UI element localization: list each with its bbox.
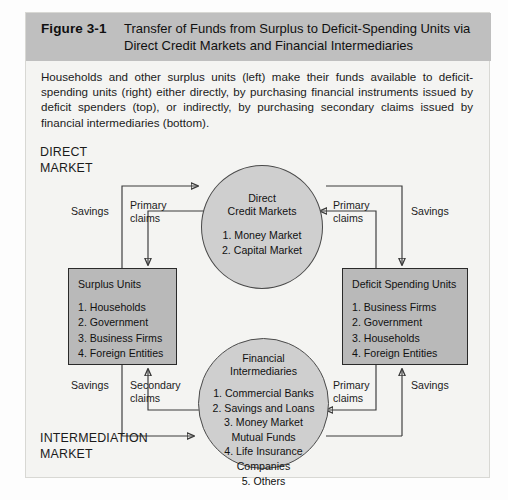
figure-number-label: Figure 3-1 — [41, 21, 107, 36]
market-label-direct: DIRECT MARKET — [40, 144, 93, 176]
figure-header-band: Figure 3-1 Transfer of Funds from Surplu… — [26, 13, 491, 61]
edge-label-primary-claims-bottom-right: Primary claims — [333, 379, 370, 405]
node-surplus-units: Surplus Units 1. Households 2. Governmen… — [68, 268, 177, 365]
edge-label-primary-claims-top-right: Primary claims — [333, 199, 370, 225]
edge-label-secondary-claims-bottom-left: Secondary claims — [130, 379, 181, 405]
figure-screenshot: Figure 3-1 Transfer of Funds from Surplu… — [0, 0, 508, 500]
surplus-units-title: Surplus Units — [78, 278, 141, 290]
figure-caption: Households and other surplus units (left… — [41, 69, 473, 130]
deficit-spending-units-list: 1. Business Firms 2. Government 3. House… — [352, 300, 437, 361]
edge-label-savings-bottom-right: Savings — [411, 379, 449, 392]
edge-label-savings-top-right: Savings — [411, 205, 449, 218]
figure-title: Transfer of Funds from Surplus to Defici… — [124, 20, 482, 54]
node-direct-credit-markets: Direct Credit Markets 1. Money Market 2.… — [201, 165, 323, 289]
surplus-units-list: 1. Households 2. Government 3. Business … — [78, 300, 163, 361]
financial-intermediaries-title: Financial Intermediaries — [199, 352, 328, 378]
figure-panel: Figure 3-1 Transfer of Funds from Surplu… — [25, 12, 490, 478]
direct-credit-markets-title: Direct Credit Markets — [202, 192, 322, 218]
node-deficit-spending-units: Deficit Spending Units 1. Business Firms… — [342, 268, 468, 365]
financial-intermediaries-list: 1. Commercial Banks 2. Savings and Loans… — [199, 386, 328, 488]
deficit-spending-units-title: Deficit Spending Units — [352, 278, 456, 290]
edge-label-savings-top-left: Savings — [71, 205, 109, 218]
direct-credit-markets-list: 1. Money Market 2. Capital Market — [202, 228, 322, 257]
node-financial-intermediaries: Financial Intermediaries 1. Commercial B… — [198, 338, 329, 469]
edge-label-primary-claims-top-left: Primary claims — [130, 199, 167, 225]
edge-label-savings-bottom-left: Savings — [71, 379, 109, 392]
flow-diagram: DIRECT MARKET INTERMEDIATION MARKET Savi… — [26, 131, 491, 479]
market-label-intermediation: INTERMEDIATION MARKET — [40, 430, 148, 462]
wire-savings-top-right — [326, 186, 402, 265]
